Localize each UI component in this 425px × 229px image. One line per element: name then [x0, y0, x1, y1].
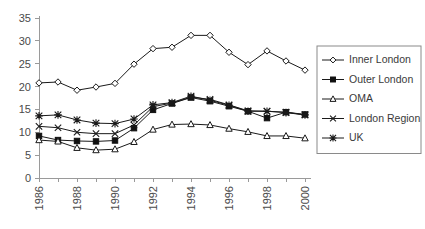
marker-open-diamond: [188, 32, 194, 38]
x-tick-label: 2000: [299, 186, 311, 210]
x-tick-label: 1998: [261, 186, 273, 210]
x-tick-label: 1996: [223, 186, 235, 210]
marker-filled-square: [331, 77, 336, 82]
marker-asterisk: [282, 109, 290, 117]
marker-open-diamond: [36, 80, 42, 86]
legend-item-label: OMA: [349, 92, 373, 104]
data-series-group: [35, 32, 309, 153]
marker-asterisk: [206, 96, 214, 104]
y-tick-label: 0: [25, 172, 31, 184]
chart-container: 05101520253035 1986198819901992199419961…: [0, 0, 425, 229]
y-tick-label: 30: [19, 35, 31, 47]
marker-asterisk: [92, 119, 100, 127]
marker-asterisk: [225, 102, 233, 110]
marker-asterisk: [130, 115, 138, 123]
y-tick-label: 10: [19, 126, 31, 138]
x-tick-label: 1988: [71, 186, 83, 210]
marker-open-diamond: [264, 48, 270, 54]
marker-asterisk: [301, 111, 309, 119]
line-chart: 05101520253035 1986198819901992199419961…: [0, 0, 425, 229]
marker-open-diamond: [55, 79, 61, 85]
x-tick-label: 1992: [147, 186, 159, 210]
y-tick-label: 25: [19, 58, 31, 70]
marker-asterisk: [168, 99, 176, 107]
y-tick-label: 15: [19, 103, 31, 115]
series-oma: [36, 121, 308, 153]
legend-item-label: Outer London: [349, 73, 413, 85]
marker-asterisk: [35, 112, 43, 120]
marker-open-diamond: [283, 58, 289, 64]
marker-asterisk: [73, 116, 81, 124]
marker-asterisk: [111, 120, 119, 128]
marker-filled-square: [74, 138, 79, 143]
marker-asterisk: [244, 107, 252, 115]
y-axis-ticks: 05101520253035: [19, 12, 39, 184]
marker-asterisk: [330, 135, 337, 142]
x-tick-label: 1994: [185, 186, 197, 210]
series-inner-london: [36, 32, 308, 93]
y-tick-label: 35: [19, 12, 31, 24]
marker-filled-square: [93, 139, 98, 144]
x-tick-label: 1986: [33, 186, 45, 210]
y-tick-label: 20: [19, 81, 31, 93]
x-tick-label: 1990: [109, 186, 121, 210]
marker-asterisk: [187, 92, 195, 100]
marker-asterisk: [149, 101, 157, 109]
marker-open-triangle: [131, 138, 137, 144]
x-axis-ticks: 19861988199019921994199619982000: [33, 178, 311, 210]
marker-open-diamond: [302, 67, 308, 73]
marker-open-diamond: [93, 84, 99, 90]
marker-asterisk: [54, 111, 62, 119]
marker-open-diamond: [245, 61, 251, 67]
marker-filled-square: [112, 138, 117, 143]
legend-item-label: UK: [349, 131, 364, 143]
marker-asterisk: [263, 107, 271, 115]
marker-open-diamond: [169, 44, 175, 50]
marker-open-diamond: [74, 87, 80, 93]
legend-item-label: Inner London: [349, 53, 411, 65]
y-tick-label: 5: [25, 149, 31, 161]
marker-filled-square: [264, 115, 269, 120]
chart-legend: Inner LondonOuter LondonOMALondon Region…: [317, 46, 421, 154]
legend-item-label: London Region: [349, 112, 420, 124]
